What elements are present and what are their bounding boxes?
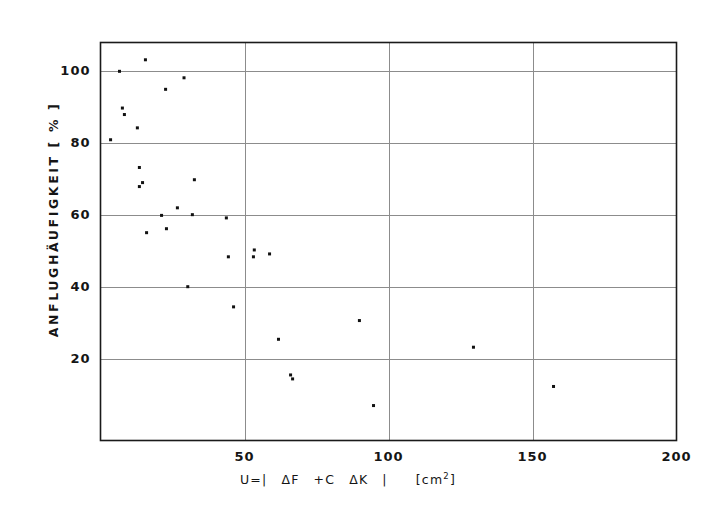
x-axis-unit-exponent: 2 xyxy=(443,471,450,481)
data-point xyxy=(252,255,255,258)
data-point xyxy=(118,70,121,73)
data-point xyxy=(121,107,124,110)
data-point xyxy=(472,346,475,349)
data-point xyxy=(138,166,141,169)
data-point xyxy=(109,138,112,141)
data-point xyxy=(160,214,163,217)
data-point xyxy=(165,227,168,230)
data-point xyxy=(291,377,294,380)
y-axis-label: ANFLUGHÄUFIGKEIT [ % ] xyxy=(46,70,61,370)
data-point xyxy=(144,58,147,61)
y-tick-label-100: 100 xyxy=(60,63,90,78)
data-point xyxy=(232,305,235,308)
data-point xyxy=(358,319,361,322)
data-point xyxy=(253,248,256,251)
x-axis-label-close: | xyxy=(382,472,387,487)
x-tick-label-50: 50 xyxy=(205,449,285,464)
y-tick-label-80: 80 xyxy=(70,135,90,150)
data-markers xyxy=(109,58,555,407)
data-point xyxy=(176,206,179,209)
data-point xyxy=(552,385,555,388)
data-point xyxy=(191,213,194,216)
x-axis-label-term1: ΔF xyxy=(281,472,299,487)
x-axis-label-term2: ΔK xyxy=(349,472,368,487)
data-point xyxy=(141,181,144,184)
x-tick-label-200: 200 xyxy=(637,449,717,464)
data-point xyxy=(136,126,139,129)
data-point xyxy=(193,178,196,181)
data-point xyxy=(268,252,271,255)
data-point xyxy=(372,404,375,407)
data-point xyxy=(183,76,186,79)
x-axis-label-plus: +C xyxy=(314,472,336,487)
gridlines xyxy=(101,43,677,441)
y-tick-label-40: 40 xyxy=(70,279,90,294)
x-axis-label: U=|ΔF+CΔK|[cm2] xyxy=(240,471,456,487)
x-axis-unit-open: [cm xyxy=(416,472,444,487)
x-tick-label-150: 150 xyxy=(493,449,573,464)
data-point xyxy=(138,185,141,188)
plot-frame xyxy=(101,43,677,441)
data-point xyxy=(145,231,148,234)
x-axis-unit-close: ] xyxy=(450,472,456,487)
data-point xyxy=(289,373,292,376)
plot-canvas xyxy=(0,0,723,511)
data-point xyxy=(225,216,228,219)
scatter-plot-figure: 20406080100 50100150200 ANFLUGHÄUFIGKEIT… xyxy=(0,0,723,511)
y-tick-label-60: 60 xyxy=(70,207,90,222)
y-tick-label-20: 20 xyxy=(70,351,90,366)
data-point xyxy=(123,113,126,116)
data-point xyxy=(164,88,167,91)
data-point xyxy=(227,255,230,258)
data-point xyxy=(186,285,189,288)
x-axis-label-lead: U=| xyxy=(240,472,267,487)
data-point xyxy=(277,338,280,341)
x-tick-label-100: 100 xyxy=(349,449,429,464)
